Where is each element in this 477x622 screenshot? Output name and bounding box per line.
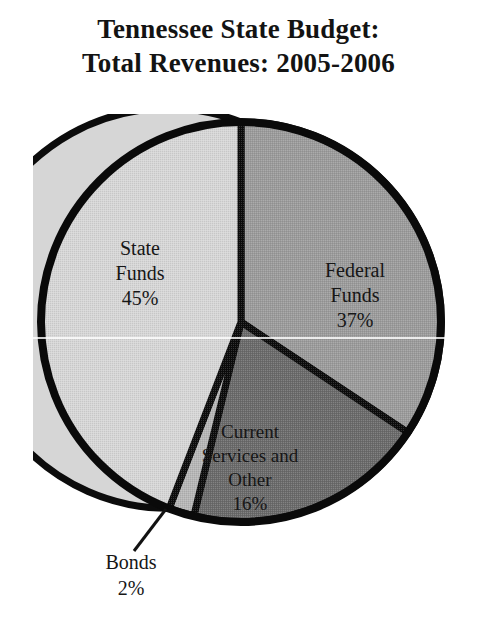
page-title: Tennessee State Budget: Total Revenues: …	[0, 12, 477, 80]
federal-funds-line-1: Federal	[290, 258, 420, 283]
title-line-1: Tennessee State Budget:	[0, 12, 477, 46]
slice-label-bonds: Bonds 2%	[66, 549, 196, 601]
pie-chart-figure: Tennessee State Budget: Total Revenues: …	[0, 0, 477, 622]
current-services-line-3: Other	[168, 468, 332, 492]
state-funds-line-1: State	[75, 236, 205, 261]
current-services-line-1: Current	[168, 420, 332, 444]
state-funds-line-2: Funds	[75, 261, 205, 286]
current-services-line-2: Services and	[168, 444, 332, 468]
slice-label-state-funds: State Funds 45%	[75, 236, 205, 311]
federal-funds-percent: 37%	[290, 308, 420, 333]
bonds-line-1: Bonds	[66, 549, 196, 575]
federal-funds-line-2: Funds	[290, 283, 420, 308]
bonds-percent: 2%	[66, 575, 196, 601]
slice-label-current-services-and-other: Current Services and Other 16%	[168, 420, 332, 516]
current-services-percent: 16%	[168, 492, 332, 516]
state-funds-percent: 45%	[75, 286, 205, 311]
slice-label-federal-funds: Federal Funds 37%	[290, 258, 420, 333]
title-line-2: Total Revenues: 2005-2006	[0, 46, 477, 80]
